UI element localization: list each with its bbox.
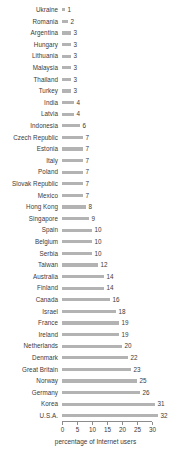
bar-category-label: Mexico xyxy=(0,190,58,202)
bar-category-label: Norway xyxy=(0,375,58,387)
bar-value-label: 3 xyxy=(74,50,78,62)
x-axis-tick xyxy=(107,422,108,425)
bar-row: Denmark22 xyxy=(0,352,191,364)
x-axis-tick-label: 5 xyxy=(76,426,80,434)
bar-row: Romania2 xyxy=(0,16,191,28)
bar-value-label: 7 xyxy=(86,132,90,144)
bar xyxy=(62,182,83,185)
x-axis-tick-label: 25 xyxy=(134,426,141,434)
bar xyxy=(62,414,158,417)
bar-category-label: Great Britain xyxy=(0,364,58,376)
bar-value-label: 32 xyxy=(161,410,168,422)
bar-category-label: Spain xyxy=(0,224,58,236)
bar-row: Hungary3 xyxy=(0,39,191,51)
bar xyxy=(62,333,119,336)
bar-row: Great Britain23 xyxy=(0,364,191,376)
bar-value-label: 7 xyxy=(86,155,90,167)
bar-category-label: Thailand xyxy=(0,74,58,86)
bar-category-label: U.S.A. xyxy=(0,410,58,422)
bar-category-label: Turkey xyxy=(0,85,58,97)
bar xyxy=(62,20,68,23)
x-axis-tick xyxy=(137,422,138,425)
bar xyxy=(62,171,83,174)
bar-category-label: Australia xyxy=(0,271,58,283)
bar-category-label: Netherlands xyxy=(0,340,58,352)
bar-category-label: Malaysia xyxy=(0,62,58,74)
bar-category-label: Finland xyxy=(0,282,58,294)
bar-value-label: 25 xyxy=(140,375,147,387)
bar-value-label: 4 xyxy=(77,97,81,109)
bar xyxy=(62,194,83,197)
bar-row: Finland14 xyxy=(0,282,191,294)
bar-value-label: 18 xyxy=(119,306,126,318)
bar-value-label: 1 xyxy=(68,4,72,16)
bar-category-label: Serbia xyxy=(0,248,58,260)
bar xyxy=(62,205,86,208)
x-axis-tick xyxy=(122,422,123,425)
bar-value-label: 14 xyxy=(107,271,114,283)
bar-row: Estonia7 xyxy=(0,143,191,155)
x-axis-tick-label: 0 xyxy=(61,426,65,434)
bar-row: Latvia4 xyxy=(0,108,191,120)
bar xyxy=(62,217,89,220)
bar-category-label: Belgium xyxy=(0,236,58,248)
bar xyxy=(62,66,71,69)
bar xyxy=(62,368,131,371)
bar-row: U.S.A.32 xyxy=(0,410,191,422)
bar xyxy=(62,356,128,359)
bar-row: Mexico7 xyxy=(0,190,191,202)
bar-value-label: 7 xyxy=(86,143,90,155)
bar-category-label: Argentina xyxy=(0,27,58,39)
bar-value-label: 16 xyxy=(113,294,120,306)
x-axis-tick xyxy=(77,422,78,425)
bar-category-label: Latvia xyxy=(0,108,58,120)
bar-value-label: 10 xyxy=(95,248,102,260)
bar-value-label: 7 xyxy=(86,190,90,202)
bar-category-label: Indonesia xyxy=(0,120,58,132)
bar-value-label: 8 xyxy=(89,201,93,213)
bar-value-label: 3 xyxy=(74,62,78,74)
bar-category-label: Italy xyxy=(0,155,58,167)
bar-category-label: Israel xyxy=(0,306,58,318)
bar-category-label: Ireland xyxy=(0,329,58,341)
x-axis-tick-label: 10 xyxy=(89,426,96,434)
bar xyxy=(62,89,71,92)
bar-row: Italy7 xyxy=(0,155,191,167)
bar-value-label: 31 xyxy=(158,398,165,410)
bar xyxy=(62,78,71,81)
bar xyxy=(62,159,83,162)
bar-value-label: 3 xyxy=(74,27,78,39)
bar xyxy=(62,43,71,46)
bar-row: Belgium10 xyxy=(0,236,191,248)
bar-category-label: Korea xyxy=(0,398,58,410)
bar-value-label: 23 xyxy=(134,364,141,376)
bar-row: Israel18 xyxy=(0,306,191,318)
bar-value-label: 7 xyxy=(86,178,90,190)
x-axis-tick xyxy=(62,422,63,425)
bar xyxy=(62,287,104,290)
bar xyxy=(62,101,74,104)
bar-category-label: Taiwan xyxy=(0,259,58,271)
x-axis-tick xyxy=(92,422,93,425)
bar-value-label: 9 xyxy=(92,213,96,225)
bar-category-label: Denmark xyxy=(0,352,58,364)
bar xyxy=(62,124,80,127)
chart-container: Ukraine1Romania2Argentina3Hungary3Lithua… xyxy=(0,0,191,450)
bar xyxy=(62,8,65,11)
bar-category-label: Hong Kong xyxy=(0,201,58,213)
bar-row: Singapore9 xyxy=(0,213,191,225)
x-axis-tick xyxy=(152,422,153,425)
bar-value-label: 10 xyxy=(95,224,102,236)
bar-row: Canada16 xyxy=(0,294,191,306)
bar-value-label: 12 xyxy=(101,259,108,271)
bar-value-label: 7 xyxy=(86,166,90,178)
bar-value-label: 3 xyxy=(74,85,78,97)
bar-row: Norway25 xyxy=(0,375,191,387)
bar-row: France19 xyxy=(0,317,191,329)
bar-category-label: Romania xyxy=(0,16,58,28)
bar-value-label: 14 xyxy=(107,282,114,294)
bar-category-label: Hungary xyxy=(0,39,58,51)
bar-value-label: 3 xyxy=(74,39,78,51)
bar-row: Lithuania3 xyxy=(0,50,191,62)
bar-value-label: 26 xyxy=(143,387,150,399)
